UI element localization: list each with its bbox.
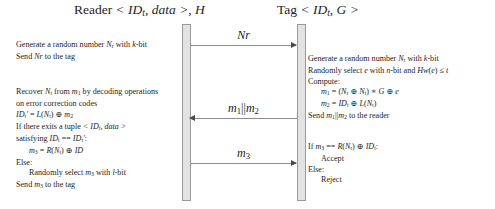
tag-step-2-note: If m3 == R(Nt) ⊕ IDt: Accept Else: Rejec… [308,142,378,186]
tag-step-1-note: Generate a random number Nt with k-bit R… [308,54,448,123]
note-line: Accept [308,154,378,165]
reader-step-2-note: Recover Nt from m1 by decoding operation… [16,87,158,193]
tag-lifeline [297,24,306,201]
reader-party-header: Reader < IDt, data >, H [74,2,205,18]
message-2-label: m1||m2 [191,101,296,116]
message-2-line [191,118,297,119]
protocol-diagram: Reader < IDt, data >, H Tag < IDt, G > N… [0,0,495,209]
tag-party-header: Tag < IDt, G > [277,2,359,18]
arrow-left-icon [189,115,195,121]
note-line: Compute: [308,77,448,88]
note-line: Send m1||m2 to the reader [308,111,448,123]
message-1-label: Nr [191,28,296,43]
arrow-right-icon [291,42,297,48]
arrow-right-icon [291,160,297,166]
note-line: m3 = R(Nt) ⊕ ID [16,146,158,158]
note-line: on error correction codes [16,99,158,110]
note-line: Else: [308,165,378,176]
note-line: Generate a random number Nr with k-bit [16,40,147,52]
note-line: IDt' = L(Nt) ⊕ m2 [16,110,158,122]
note-line: m2 = IDt ⊕ L(Nt) [308,99,448,111]
note-line: Randomly select e with n-bit and Hw(e) ≤… [308,66,448,77]
message-3-line [191,163,296,164]
note-line: Reject [308,175,378,186]
note-line: If there exits a tuple < IDt, data > [16,122,158,134]
note-line: Randomly select m3 with l-bit [16,168,158,180]
note-line: satisfying IDt == IDt': [16,134,158,146]
message-3-label: m3 [191,146,296,161]
reader-step-1-note: Generate a random number Nr with k-bit S… [16,40,147,63]
note-line: Send Nr to the tag [16,52,147,63]
note-line: m1 = (Nr ⊕ Nt) ∗ G ⊕ e [308,87,448,99]
note-line: Else: [16,158,158,169]
note-line: Generate a random number Nt with k-bit [308,54,448,66]
reader-lifeline [182,24,191,201]
note-line: Recover Nt from m1 by decoding operation… [16,87,158,99]
note-line: Send m3 to the tag [16,180,158,192]
message-1-line [191,45,296,46]
note-line: If m3 == R(Nt) ⊕ IDt: [308,142,378,154]
